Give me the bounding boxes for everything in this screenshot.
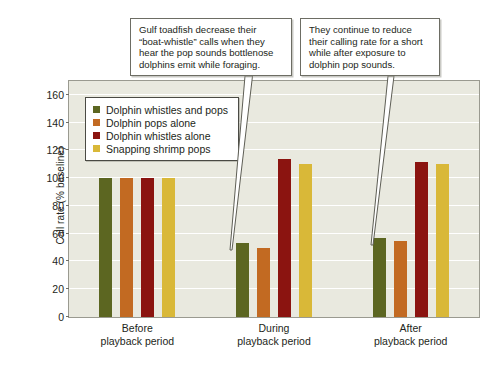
- chart-figure: Call rate (% baseline) 02040608010012014…: [0, 0, 490, 369]
- bar: [373, 238, 386, 317]
- y-tick-label: 100: [46, 172, 64, 184]
- bar: [257, 248, 270, 317]
- bar: [278, 159, 291, 317]
- y-tick-label: 160: [46, 89, 64, 101]
- legend-item: Snapping shrimp pops: [93, 142, 228, 155]
- legend-item: Dolphin pops alone: [93, 116, 228, 129]
- y-tick-label: 20: [52, 283, 64, 295]
- legend-label: Dolphin pops alone: [106, 117, 196, 129]
- legend-label: Dolphin whistles and pops: [106, 104, 228, 116]
- legend-label: Dolphin whistles alone: [106, 130, 210, 142]
- y-tick-label: 140: [46, 117, 64, 129]
- bar: [99, 178, 112, 317]
- x-group-label: Beforeplayback period: [77, 322, 197, 348]
- x-group-label-line2: playback period: [77, 335, 197, 348]
- x-group-label-line1: After: [351, 322, 471, 335]
- y-tick-label: 0: [58, 311, 64, 323]
- bar: [394, 241, 407, 317]
- x-group-label-line2: playback period: [351, 335, 471, 348]
- y-tick-label: 120: [46, 144, 64, 156]
- callout-box-2: They continue to reduce their calling ra…: [300, 18, 440, 76]
- y-tick-label: 40: [52, 255, 64, 267]
- legend-label: Snapping shrimp pops: [106, 143, 210, 155]
- x-group-label-line1: Before: [77, 322, 197, 335]
- x-group-label: Duringplayback period: [214, 322, 334, 348]
- callout-text-1: Gulf toadfish decrease their “boat-whist…: [139, 24, 284, 70]
- legend: Dolphin whistles and popsDolphin pops al…: [85, 97, 239, 161]
- bar: [236, 243, 249, 317]
- legend-item: Dolphin whistles alone: [93, 129, 228, 142]
- bar: [415, 162, 428, 317]
- x-group-label-line2: playback period: [214, 335, 334, 348]
- x-group-label-line1: During: [214, 322, 334, 335]
- bar: [120, 178, 133, 317]
- y-tick-label: 60: [52, 228, 64, 240]
- callout-text-2: They continue to reduce their calling ra…: [309, 24, 432, 70]
- bar: [162, 178, 175, 317]
- legend-swatch-icon: [93, 119, 100, 126]
- legend-swatch-icon: [93, 145, 100, 152]
- legend-swatch-icon: [93, 106, 100, 113]
- bar: [141, 178, 154, 317]
- y-tick-label: 80: [52, 200, 64, 212]
- legend-item: Dolphin whistles and pops: [93, 103, 228, 116]
- callout-box-1: Gulf toadfish decrease their “boat-whist…: [130, 18, 292, 76]
- bar: [436, 164, 449, 317]
- legend-swatch-icon: [93, 132, 100, 139]
- bar: [299, 164, 312, 317]
- x-group-label: Afterplayback period: [351, 322, 471, 348]
